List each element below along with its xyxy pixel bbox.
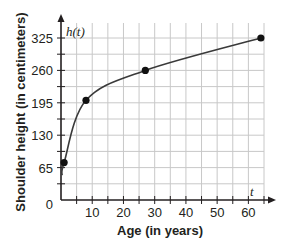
data-point [82,97,89,104]
x-tick-label: 50 [210,205,224,220]
x-tick-label: 40 [179,205,193,220]
y-tick-label: 260 [31,63,53,78]
y-tick-label: 65 [39,161,53,176]
function-curve [62,38,261,175]
x-tick-labels: 102030405060 [85,205,256,220]
x-axis-title: Age (in years) [117,223,203,238]
y-tick-label: 325 [31,31,53,46]
x-variable-label: t [250,184,254,199]
x-tick-label: 60 [241,205,255,220]
y-tick-label: 0 [46,197,53,212]
data-point [61,159,68,166]
chart: 102030405060 065130195260325 h(t) t Age … [0,0,281,243]
x-tick-label: 20 [116,205,130,220]
y-axis-title: Shoulder height (in centimeters) [13,12,28,211]
y-tick-label: 195 [31,96,53,111]
y-variable-label: h(t) [66,24,85,39]
y-tick-labels: 065130195260325 [31,31,53,212]
y-tick-label: 130 [31,128,53,143]
grid [61,23,264,200]
data-point [142,67,149,74]
x-tick-label: 10 [85,205,99,220]
x-tick-label: 30 [147,205,161,220]
data-point [257,34,264,41]
